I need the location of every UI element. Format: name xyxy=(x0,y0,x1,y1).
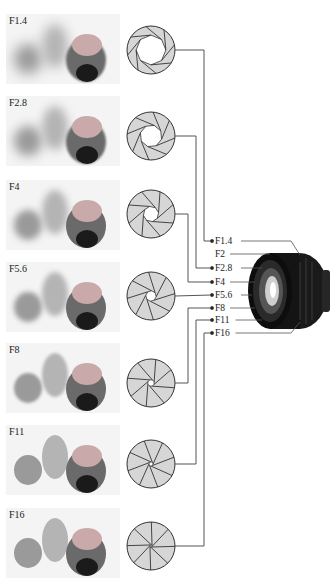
aperture-iris-icon xyxy=(127,359,175,407)
connector-line xyxy=(175,295,211,296)
fstop-scale-label: F8 xyxy=(215,303,225,313)
lens-icon xyxy=(248,253,330,329)
connector-line xyxy=(175,308,211,383)
fstop-photo-label: F1.4 xyxy=(9,15,27,26)
fstop-photo-label: F5.6 xyxy=(9,263,27,274)
fstop-scale-label: F16 xyxy=(215,328,230,338)
fstop-photo-label: F11 xyxy=(9,426,24,437)
fstop-photo-label: F4 xyxy=(9,181,20,192)
connector-line xyxy=(175,214,211,282)
aperture-iris-icon xyxy=(127,272,175,320)
aperture-iris-icon xyxy=(127,522,175,570)
scale-leader-line xyxy=(241,241,300,255)
connector-line xyxy=(175,320,211,464)
connector-line xyxy=(175,333,211,546)
fstop-scale-label: F2.8 xyxy=(215,263,232,273)
fstop-scale-label: F2 xyxy=(215,249,225,259)
fstop-photo-label: F8 xyxy=(9,344,20,355)
aperture-iris-icon xyxy=(127,190,175,238)
fstop-scale-label: F11 xyxy=(215,315,229,325)
connector-line xyxy=(175,50,211,241)
aperture-iris-icon xyxy=(127,112,175,160)
fstop-scale-label: F5.6 xyxy=(215,290,232,300)
fstop-photo-label: F16 xyxy=(9,509,25,520)
fstop-scale-label: F1.4 xyxy=(215,236,232,246)
connector-line xyxy=(175,136,211,268)
aperture-iris-icon xyxy=(127,26,175,74)
fstop-scale-label: F4 xyxy=(215,277,225,287)
aperture-iris-icon xyxy=(127,440,175,488)
fstop-photo-label: F2.8 xyxy=(9,97,27,108)
